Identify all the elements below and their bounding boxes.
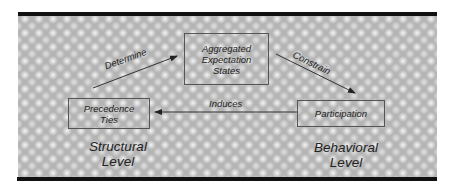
node-label: Aggregated Expectation States [202, 43, 252, 76]
node-label: Participation [315, 108, 367, 119]
node-precedence-ties: Precedence Ties [68, 98, 150, 129]
level-behavioral: Behavioral Level [305, 140, 387, 170]
edge-label-induces: Induces [209, 98, 242, 109]
node-participation: Participation [297, 100, 385, 127]
node-aggregated-expectation-states: Aggregated Expectation States [184, 33, 269, 85]
level-structural: Structural Level [78, 139, 158, 169]
node-label: Precedence Ties [84, 103, 135, 125]
